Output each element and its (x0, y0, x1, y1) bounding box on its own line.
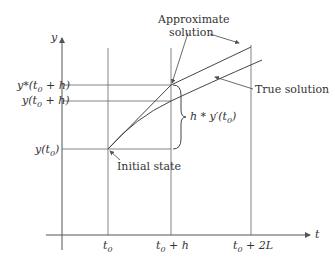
true-solution-pointer (215, 77, 253, 89)
initial-state-pointer (110, 151, 120, 160)
approximate-solution-label-line2: solution (169, 27, 214, 38)
initial-state-label: Initial state (117, 161, 181, 172)
euler-method-diagram: y t y*(t0 + h) y(t0 + h) y(t0) t0 t0 + h… (0, 0, 335, 261)
true-solution-curve (108, 60, 262, 149)
t0-plus-h-tick-label: t0 + h (156, 240, 189, 254)
approximate-pointer-2 (210, 34, 239, 43)
y-t0-label: y(t0) (35, 144, 59, 158)
y-axis-label: y (51, 32, 57, 43)
approximate-pointer (172, 33, 188, 83)
t0-tick-label: t0 (103, 240, 113, 254)
increment-label: h * y′(t0) (190, 111, 236, 125)
t-axis-label: t (315, 229, 319, 240)
approximate-solution-line (108, 47, 251, 149)
ystar-t0h-label: y*(t0 + h) (17, 80, 70, 94)
approximate-solution-label-line1: Approximate (158, 14, 230, 25)
true-solution-label: True solution (255, 84, 329, 95)
y-t0h-label: y(t0 + h) (22, 95, 70, 109)
t0-plus-2L-tick-label: t0 + 2L (233, 240, 273, 254)
